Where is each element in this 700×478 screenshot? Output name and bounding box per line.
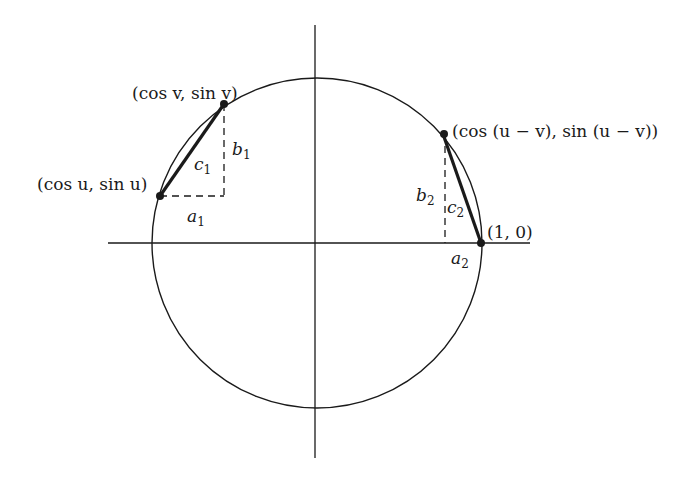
label-c1: c1 [194, 154, 211, 177]
label-u: (cos u, sin u) [37, 174, 147, 194]
label-b2: b2 [416, 185, 435, 208]
point-u [156, 192, 164, 200]
point-one-zero [477, 239, 485, 247]
label-a2: a2 [451, 248, 469, 271]
label-one-zero: (1, 0) [487, 222, 533, 242]
chord-c1 [160, 104, 224, 196]
label-v: (cos v, sin v) [132, 83, 238, 103]
unit-circle-diagram: (cos v, sin v) (cos u, sin u) (cos (u − … [0, 0, 700, 478]
point-u-minus-v [440, 130, 448, 138]
label-a1: a1 [187, 206, 205, 229]
chord-c2 [443, 134, 481, 243]
label-b1: b1 [232, 139, 251, 162]
label-u-minus-v: (cos (u − v), sin (u − v)) [452, 121, 658, 141]
label-c2: c2 [447, 197, 464, 220]
